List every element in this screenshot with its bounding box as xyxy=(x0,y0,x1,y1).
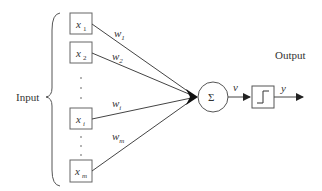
svg-text:x: x xyxy=(75,18,81,30)
weight-wm: wm xyxy=(112,130,124,145)
svg-text:x: x xyxy=(75,47,81,59)
input-label: Input xyxy=(16,91,39,103)
ellipsis-dots-2 xyxy=(80,136,82,156)
input-box-xi: xi xyxy=(70,108,92,129)
perceptron-diagram: Input x1 x2 xi xm w1 w2 wi wm Σ v xyxy=(0,0,322,191)
sigma-icon: Σ xyxy=(208,91,214,103)
y-label: y xyxy=(280,82,286,94)
step-activation-box xyxy=(252,86,274,108)
svg-text:x: x xyxy=(74,165,80,177)
input-box-x2: x2 xyxy=(70,42,92,63)
input-brace xyxy=(46,13,60,186)
weight-connections xyxy=(92,24,196,171)
output-label: Output xyxy=(275,49,306,61)
v-label: v xyxy=(233,81,238,93)
svg-text:x: x xyxy=(75,113,81,125)
input-box-xm: xm xyxy=(70,160,92,182)
summation-node: Σ xyxy=(198,82,228,112)
converge-arrow-icon xyxy=(186,89,198,105)
weight-w1: w1 xyxy=(114,27,125,42)
svg-text:1: 1 xyxy=(83,25,87,33)
weight-w2: w2 xyxy=(112,50,123,65)
input-box-x1: x1 xyxy=(70,13,92,34)
svg-text:m: m xyxy=(82,172,87,180)
svg-text:i: i xyxy=(83,120,85,128)
svg-text:2: 2 xyxy=(83,54,87,62)
ellipsis-dots-1 xyxy=(80,77,82,99)
weight-wi: wi xyxy=(112,97,121,112)
